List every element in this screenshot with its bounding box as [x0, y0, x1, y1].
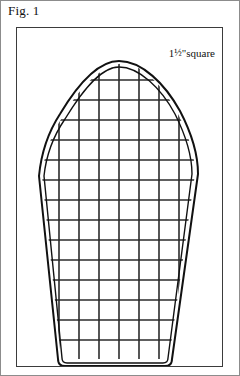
page-border-top	[0, 0, 240, 1]
figure-box: 1½"square	[16, 27, 223, 367]
grid-size-label: 1½"square	[169, 46, 215, 60]
page-border-right	[239, 0, 240, 376]
grid-size-fraction: ½	[174, 47, 182, 58]
figure-page: Fig. 1	[0, 0, 240, 376]
page-border-left	[0, 0, 1, 376]
pattern-piece-diagram	[17, 28, 222, 366]
grid-size-unit: "square	[182, 47, 215, 59]
figure-caption: Fig. 1	[8, 3, 40, 19]
